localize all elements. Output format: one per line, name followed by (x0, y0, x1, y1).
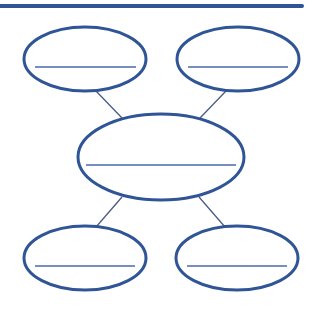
node-top-left (24, 27, 146, 91)
connector-top-left-to-center (96, 91, 122, 118)
node-bottom-left (24, 226, 146, 290)
node-top-right (177, 27, 299, 91)
nodes (24, 27, 299, 290)
connector-center-to-bottom-left (96, 197, 122, 227)
node-bottom-left-ellipse (24, 226, 146, 290)
center-node (78, 114, 244, 200)
connector-center-to-bottom-right (199, 197, 225, 227)
connector-top-right-to-center (200, 91, 226, 118)
center-node-ellipse (78, 114, 244, 200)
node-bottom-right (176, 226, 298, 290)
node-top-right-ellipse (177, 27, 299, 91)
bubble-map-diagram (0, 0, 314, 312)
node-top-left-ellipse (24, 27, 146, 91)
node-bottom-right-ellipse (176, 226, 298, 290)
